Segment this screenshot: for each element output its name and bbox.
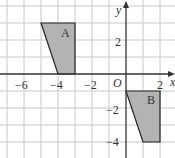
shape-b-label: B (147, 93, 155, 107)
origin-label: O (113, 76, 122, 90)
x-tick-label: −6 (15, 78, 28, 92)
shape-a-label: A (61, 26, 70, 40)
y-axis-label: y (115, 3, 122, 17)
y-axis-arrow-icon (123, 1, 129, 8)
x-tick-label: −4 (50, 78, 63, 92)
y-tick-label: −2 (106, 103, 119, 117)
x-axis-label: x (169, 75, 175, 89)
y-tick-label: 2 (115, 35, 121, 49)
y-tick-label: −4 (106, 135, 119, 149)
coordinate-diagram: y x O −6 −4 −2 2 2 −2 −4 A B (0, 0, 175, 158)
shape-a (41, 23, 75, 74)
x-tick-label: 2 (157, 78, 163, 92)
x-tick-label: −2 (84, 78, 97, 92)
